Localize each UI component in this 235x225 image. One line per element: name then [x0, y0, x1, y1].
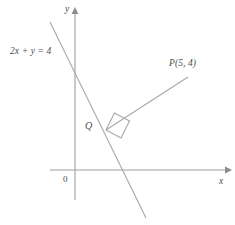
- x-axis-label: x: [219, 177, 223, 187]
- y-axis-arrowhead: [72, 7, 79, 14]
- y-axis-label: y: [65, 5, 69, 15]
- geometry-figure: 2x + y = 4 P(5, 4) Q y x 0: [0, 0, 235, 225]
- line-2x-plus-y-equals-4: [50, 22, 146, 218]
- x-axis-arrowhead: [225, 167, 232, 174]
- point-q-label: Q: [85, 121, 92, 131]
- origin-label: 0: [63, 175, 68, 184]
- segment-qp: [106, 77, 188, 130]
- figure-canvas: [0, 0, 235, 225]
- line-equation-label: 2x + y = 4: [10, 47, 51, 57]
- point-p-label: P(5, 4): [169, 59, 196, 69]
